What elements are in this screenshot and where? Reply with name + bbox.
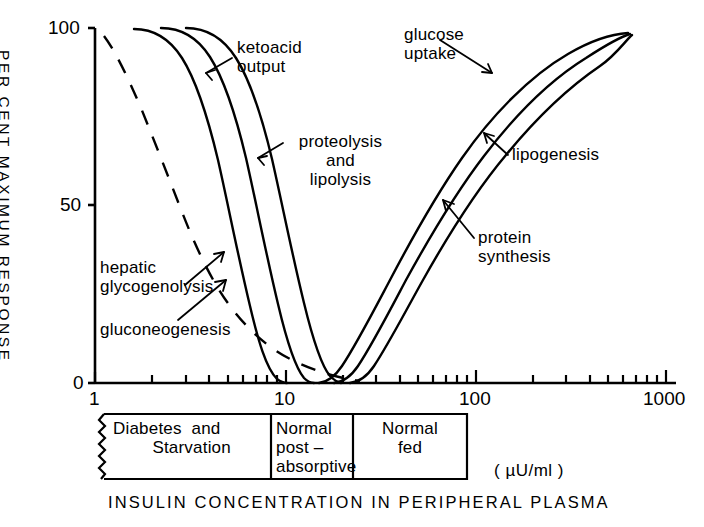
state-box-label-diabetes-starvation: Diabetes and Starvation [113,419,231,457]
state-box-label-normal-post-absorptive: Normal post – absorptive [276,419,356,476]
callout-glucose-uptake: glucose uptake [404,25,464,63]
curve-protein-synthesis [350,35,632,383]
y-tick-label-50: 50 [60,194,81,215]
x-tick-label-10: 10 [274,388,295,409]
callout-protein-synthesis: protein synthesis [478,228,551,266]
callout-hepatic-glycogenolysis: hepatic glycogenolysis [100,258,213,296]
y-tick-label-100: 100 [48,17,80,38]
state-box-label-normal-fed: Normal fed [357,419,463,457]
curve-lipogenesis [334,34,630,383]
x-axis-title: INSULIN CONCENTRATION IN PERIPHERAL PLAS… [108,493,610,511]
x-axis-ticks [95,370,666,383]
callout-lipogenesis: lipogenesis [512,145,599,164]
callout-proteolysis-and-lipolysis: proteolysis and lipolysis [288,132,393,189]
y-axis-title: PER CENT MAXIMUM RESPONSE [0,50,13,350]
x-tick-label-100: 100 [459,388,491,409]
callout-ketoacid-output: ketoacid output [237,38,302,76]
anabolic-response-curves [319,33,632,383]
x-tick-label-1: 1 [89,388,100,409]
y-tick-label-0: 0 [73,372,84,393]
insulin-dose-response-figure: 100 50 0 PER CENT MAXIMUM RESPONSE 1 10 … [0,0,704,527]
x-axis-units-label: ( µU/ml ) [494,461,564,480]
x-tick-label-1000: 1000 [643,388,685,409]
callout-gluconeogenesis: gluconeogenesis [100,320,231,339]
curve-glucose-uptake [319,33,628,383]
